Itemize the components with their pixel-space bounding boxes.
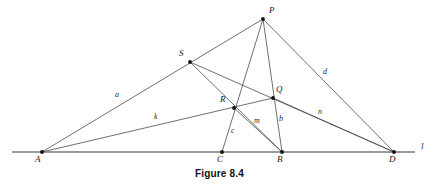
segment-PC: [222, 19, 263, 152]
segment-m-RB: [234, 108, 282, 152]
point-label-A: A: [35, 155, 41, 164]
vertex-P: [261, 17, 265, 21]
figure-8-4: A C B D P S Q R a k c m b n d l Figure 8…: [0, 0, 439, 184]
segment-label-c: c: [231, 127, 235, 135]
segment-label-m: m: [254, 117, 260, 125]
segment-label-n: n: [318, 108, 322, 116]
vertex-S: [188, 60, 192, 64]
point-label-P: P: [269, 6, 275, 15]
segment-label-d: d: [323, 68, 327, 76]
segment-label-a: a: [115, 91, 119, 99]
point-label-R: R: [220, 95, 226, 104]
point-label-C: C: [217, 155, 223, 164]
point-label-B: B: [277, 155, 283, 164]
point-label-Q: Q: [276, 85, 283, 94]
segment-a-AP: [42, 19, 263, 152]
figure-caption: Figure 8.4: [0, 168, 439, 179]
baseline-label-l: l: [421, 142, 424, 151]
segment-k-AR-Q: [42, 98, 273, 152]
point-label-S: S: [179, 49, 184, 58]
segment-label-k: k: [154, 113, 158, 121]
vertex-R: [232, 106, 236, 110]
segment-SQD: [190, 62, 394, 152]
segment-label-b: b: [279, 115, 283, 123]
vertex-Q: [271, 96, 275, 100]
point-label-D: D: [389, 155, 396, 164]
